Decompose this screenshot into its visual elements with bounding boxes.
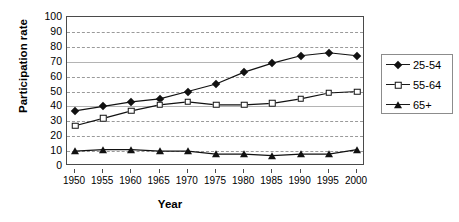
square-marker-icon — [326, 90, 333, 97]
square-marker-icon — [156, 102, 163, 109]
square-marker-icon — [354, 88, 361, 95]
triangle-marker-icon — [386, 99, 410, 111]
chart-container: Participation rate Year 0102030405060708… — [0, 0, 459, 222]
x-tick-mark — [356, 169, 357, 173]
x-tick-mark — [187, 169, 188, 173]
y-tick-label: 100 — [36, 11, 62, 21]
x-axis-title: Year — [0, 198, 340, 210]
y-tick-label: 90 — [36, 26, 62, 36]
square-marker-icon — [213, 102, 220, 109]
y-tick-label: 20 — [36, 130, 62, 140]
square-marker-icon — [100, 115, 107, 122]
x-tick-label: 2000 — [336, 175, 376, 186]
y-tick-label: 0 — [36, 160, 62, 170]
y-tick-label: 60 — [36, 71, 62, 81]
y-tick-label: 40 — [36, 100, 62, 110]
y-tick-label: 30 — [36, 115, 62, 125]
legend-item-55-64[interactable]: 55-64 — [382, 75, 452, 95]
square-marker-icon — [386, 79, 410, 91]
triangle-marker-icon — [325, 150, 333, 157]
square-marker-icon — [72, 123, 79, 130]
diamond-marker-icon — [386, 59, 410, 71]
legend-item-label: 65+ — [410, 99, 432, 111]
plot-area — [66, 16, 364, 165]
square-marker-icon — [241, 102, 248, 109]
triangle-marker-icon — [212, 150, 220, 157]
triangle-marker-icon — [184, 147, 192, 154]
triangle-marker-icon — [268, 152, 276, 159]
legend-item-label: 25-54 — [410, 59, 441, 71]
x-tick-mark — [271, 169, 272, 173]
triangle-marker-icon — [297, 150, 305, 157]
series-lines — [67, 17, 365, 166]
y-tick-label: 50 — [36, 86, 62, 96]
x-tick-mark — [300, 169, 301, 173]
triangle-marker-icon — [240, 150, 248, 157]
x-tick-mark — [243, 169, 244, 173]
x-tick-mark — [215, 169, 216, 173]
y-tick-label: 10 — [36, 145, 62, 155]
y-tick-label: 80 — [36, 41, 62, 51]
legend-item-label: 55-64 — [410, 79, 441, 91]
y-axis-title: Participation rate — [17, 0, 29, 141]
triangle-marker-icon — [156, 147, 164, 154]
triangle-marker-icon — [99, 146, 107, 153]
triangle-marker-icon — [71, 147, 79, 154]
x-tick-mark — [74, 169, 75, 173]
x-tick-mark — [102, 169, 103, 173]
triangle-marker-icon — [127, 146, 135, 153]
square-marker-icon — [185, 99, 192, 106]
x-axis-tick-labels: 1950195519601965197019751980198519901995… — [66, 170, 364, 186]
square-marker-icon — [297, 96, 304, 103]
series-line-55-64 — [75, 92, 357, 126]
x-tick-mark — [159, 169, 160, 173]
legend-item-65+[interactable]: 65+ — [382, 95, 452, 115]
x-tick-mark — [130, 169, 131, 173]
square-marker-icon — [128, 108, 135, 115]
y-axis-tick-labels: 0102030405060708090100 — [34, 16, 62, 165]
y-tick-label: 70 — [36, 56, 62, 66]
triangle-marker-icon — [353, 146, 361, 153]
legend: 25-5455-6465+ — [381, 54, 453, 114]
square-marker-icon — [269, 100, 276, 107]
x-tick-mark — [328, 169, 329, 173]
legend-item-25-54[interactable]: 25-54 — [382, 55, 452, 75]
